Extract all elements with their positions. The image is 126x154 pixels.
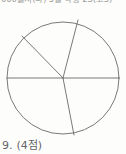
question-label-line: 9.(4점): [2, 139, 122, 153]
diagram-ink: [7, 20, 119, 135]
question-number: 9.: [2, 139, 13, 152]
radius-line-upper-right: [63, 20, 78, 78]
radius-line-upper-left: [22, 36, 63, 78]
figure-container: [0, 0, 126, 154]
sector-circle-diagram: [0, 0, 126, 154]
radius-line-lower-right: [63, 78, 74, 135]
question-points-badge: (4점): [17, 139, 43, 152]
